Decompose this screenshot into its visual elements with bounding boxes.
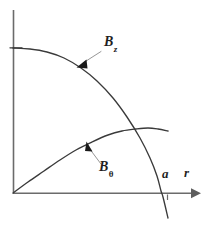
tick-label-a: a [162,165,169,181]
curve-label-btheta-base: B [99,159,108,174]
curve-btheta [13,128,168,193]
curve-label-bz-base: B [104,34,113,49]
curve-label-bz: Bz [104,33,117,52]
curve-label-bz-subscript: z [114,44,118,54]
curve-label-btheta-subscript: θ [109,169,114,179]
x-axis-arrowhead [191,188,201,198]
tick-label-a-text: a [162,166,169,181]
x-axis-label: r [184,164,189,180]
figure-root: Bz Bθ a r [0,0,209,228]
curve-label-btheta: Bθ [99,158,113,177]
bz-leader-arrowhead [77,60,88,69]
x-axis-label-text: r [184,165,189,180]
